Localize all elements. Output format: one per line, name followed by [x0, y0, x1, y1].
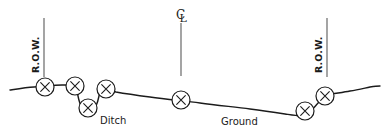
row-right-label: R.O.W. [313, 37, 324, 74]
ditch-label: Ditch [100, 115, 126, 126]
survey-point-5 [172, 91, 190, 109]
survey-point-3 [79, 99, 97, 117]
row-left-label: R.O.W. [30, 37, 41, 74]
survey-markers-group [36, 77, 334, 120]
ground-label: Ground [221, 116, 258, 127]
centerline-l-glyph: L [180, 12, 188, 25]
survey-point-6 [296, 102, 314, 120]
survey-point-2 [66, 77, 84, 95]
cross-section-diagram: R.O.W. R.O.W. C L Ditch Ground [0, 0, 388, 140]
reference-lines-group [44, 18, 327, 77]
survey-point-1 [36, 78, 54, 96]
survey-point-4 [97, 80, 115, 98]
centerline-symbol: C L [176, 8, 188, 25]
cross-section-drawing: R.O.W. R.O.W. C L Ditch Ground [0, 0, 388, 140]
survey-point-7 [316, 87, 334, 105]
